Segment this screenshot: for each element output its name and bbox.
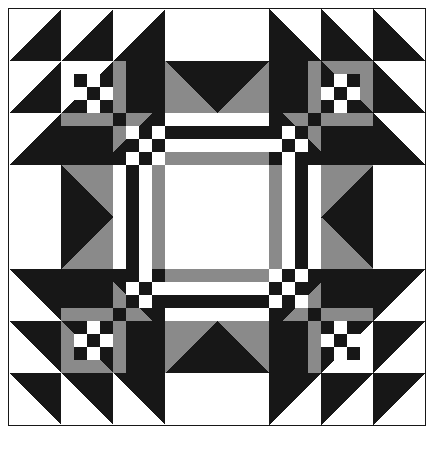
quilt-cell-run: [9, 178, 61, 191]
checker-inner-tl2-cell: [152, 126, 165, 139]
checker-inner-tr2-cell: [269, 126, 282, 139]
corner-dot-bl: [113, 308, 126, 321]
quilt-cell-run: [165, 126, 282, 139]
checker-inner-tr2-cell: [269, 152, 282, 165]
checker-br-cell: [334, 347, 347, 360]
bar-bottom-outer: [165, 308, 269, 321]
accent-bottom-right: [308, 321, 321, 373]
bar-top-inner: [165, 139, 269, 152]
checker-inner-bl2-cell: [139, 269, 152, 282]
quilt-cell-run: [61, 152, 126, 165]
accent-left-upper: [61, 113, 113, 126]
quilt-cell-run: [295, 243, 308, 256]
quilt-cell-run: [295, 165, 308, 178]
quilt-cell-run: [9, 165, 61, 178]
quilt-cell-run: [295, 178, 308, 191]
checker-br-cell: [347, 334, 360, 347]
checker-tr-cell: [321, 74, 334, 87]
checker-tr-cell: [347, 74, 360, 87]
bar-left-inner: [139, 165, 152, 269]
checker-tl-cell: [74, 87, 87, 100]
checker-tl-cell: [100, 87, 113, 100]
quilt-cell-run: [9, 230, 61, 243]
gray-frame-bottom: [152, 269, 282, 282]
checker-inner-br2-cell: [295, 295, 308, 308]
corner-dot-tl: [113, 113, 126, 126]
checker-tr-cell: [347, 100, 360, 113]
quilt-cell-run: [373, 165, 425, 178]
checker-bl-cell: [87, 347, 100, 360]
checker-tr-cell: [334, 74, 347, 87]
quilt-cell-run: [373, 204, 425, 217]
checker-tl-cell: [74, 74, 87, 87]
checker-br-cell: [347, 347, 360, 360]
checker-tr-cell: [334, 87, 347, 100]
bar-left-outer: [113, 165, 126, 269]
quilt-block-frame: [8, 8, 426, 426]
quilt-cell-run: [308, 269, 373, 282]
checker-bl-cell: [100, 347, 113, 360]
checker-br-cell: [334, 321, 347, 334]
quilt-cell-run: [9, 256, 61, 269]
checker-bl-cell: [100, 321, 113, 334]
checker-inner-bl2-cell: [126, 269, 139, 282]
bar-right-outer: [308, 165, 321, 269]
checker-tl-cell: [87, 100, 100, 113]
checker-inner-br2-cell: [295, 269, 308, 282]
quilt-cell-run: [126, 230, 139, 243]
accent-left-lower: [61, 308, 113, 321]
checker-inner-tr2-cell: [295, 126, 308, 139]
quilt-cell-run: [9, 191, 61, 204]
gray-frame-top: [152, 152, 282, 165]
accent-bottom-left: [113, 321, 126, 373]
quilt-cell-run: [373, 243, 425, 256]
quilt-cell-run: [373, 256, 425, 269]
checker-inner-tr2-cell: [295, 152, 308, 165]
corner-dot-tr: [308, 113, 321, 126]
checker-inner-bl2-cell: [152, 269, 165, 282]
quilt-cell-run: [9, 204, 61, 217]
checker-inner-tr2-cell: [282, 139, 295, 152]
quilt-cell-run: [9, 217, 61, 230]
quilt-cell-run: [126, 165, 139, 178]
quilt-cell-run: [126, 256, 139, 269]
quilt-cell-run: [373, 191, 425, 204]
checker-tl-cell: [100, 100, 113, 113]
gray-frame-left: [152, 165, 165, 269]
checker-inner-br2-cell: [295, 282, 308, 295]
checker-inner-br2-cell: [269, 282, 282, 295]
quilt-cell-run: [126, 191, 139, 204]
corner-dot-br: [308, 308, 321, 321]
checker-tr-cell: [334, 100, 347, 113]
checker-inner-tl2-cell: [152, 152, 165, 165]
center-square: [165, 165, 269, 269]
quilt-cell-run: [126, 243, 139, 256]
checker-tl-cell: [100, 74, 113, 87]
checker-inner-tl2-cell: [139, 126, 152, 139]
quilt-cell-run: [126, 204, 139, 217]
quilt-cell-run: [152, 295, 269, 308]
bar-top-outer: [165, 113, 269, 126]
checker-inner-tl2-cell: [139, 139, 152, 152]
accent-right-upper: [321, 113, 373, 126]
checker-inner-br2-cell: [269, 295, 282, 308]
checker-br-cell: [334, 334, 347, 347]
checker-inner-tl2-cell: [139, 152, 152, 165]
checker-inner-br2-cell: [269, 269, 282, 282]
quilt-cell-run: [295, 217, 308, 230]
checker-inner-bl2-cell: [152, 282, 165, 295]
quilt-cell-run: [126, 217, 139, 230]
checker-bl-cell: [74, 321, 87, 334]
quilt-block-figure: [0, 0, 435, 455]
bar-right-inner: [282, 165, 295, 269]
quilt-cell-run: [295, 256, 308, 269]
accent-top-right: [308, 61, 321, 113]
checker-inner-tr2-cell: [282, 152, 295, 165]
checker-bl-cell: [100, 334, 113, 347]
checker-br-cell: [321, 334, 334, 347]
quilt-shape-group: [9, 9, 425, 425]
quilt-cell-run: [126, 178, 139, 191]
checker-inner-br2-cell: [282, 295, 295, 308]
accent-top-left: [113, 61, 126, 113]
checker-br-cell: [321, 347, 334, 360]
